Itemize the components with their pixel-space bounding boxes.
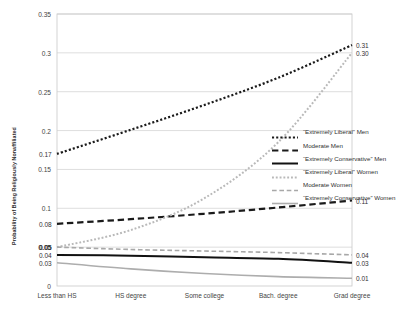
- legend-item[interactable]: Moderate Women: [272, 179, 416, 192]
- legend-label: “Extremely Liberal” Women: [303, 169, 378, 175]
- data-label-end: 0.31: [356, 42, 369, 49]
- legend-line-swatch: [272, 194, 298, 203]
- legend-item[interactable]: “Extremely Liberal” Women: [272, 166, 416, 179]
- legend-item[interactable]: “Extremely Liberal” Men: [272, 126, 416, 139]
- legend-line-swatch: [272, 128, 298, 137]
- legend-item[interactable]: “Extremely Conservative” Men: [272, 152, 416, 165]
- legend-line-swatch: [272, 168, 298, 177]
- series-line: [57, 255, 352, 263]
- data-label-end: 0.03: [356, 259, 369, 266]
- legend-label: Moderate Women: [303, 182, 352, 188]
- data-label-start: 0.17: [39, 150, 52, 157]
- legend-label: “Extremely Conservative” Men: [303, 156, 386, 162]
- legend-item[interactable]: “Extremely Conservative” Women: [272, 192, 416, 205]
- legend-line-swatch: [272, 141, 298, 150]
- data-label-end: 0.30: [356, 49, 369, 56]
- legend-label: “Extremely Liberal” Men: [303, 129, 369, 135]
- data-label-start: 0.05: [39, 244, 52, 251]
- data-label-start: 0.04: [39, 251, 52, 258]
- series-line: [57, 247, 352, 255]
- chart-legend: “Extremely Liberal” MenModerate Men“Extr…: [272, 126, 416, 205]
- data-label-end: 0.01: [356, 275, 369, 282]
- series-line: [57, 263, 352, 279]
- legend-line-swatch: [272, 154, 298, 163]
- data-label-start: 0.03: [39, 259, 52, 266]
- legend-item[interactable]: Moderate Men: [272, 139, 416, 152]
- chart-container: Probability of Being Religiously Nonaffi…: [0, 0, 416, 320]
- legend-line-swatch: [272, 181, 298, 190]
- data-label-start: 0.08: [39, 220, 52, 227]
- legend-label: “Extremely Conservative” Women: [303, 195, 395, 201]
- legend-label: Moderate Men: [303, 143, 343, 149]
- data-label-end: 0.04: [356, 251, 369, 258]
